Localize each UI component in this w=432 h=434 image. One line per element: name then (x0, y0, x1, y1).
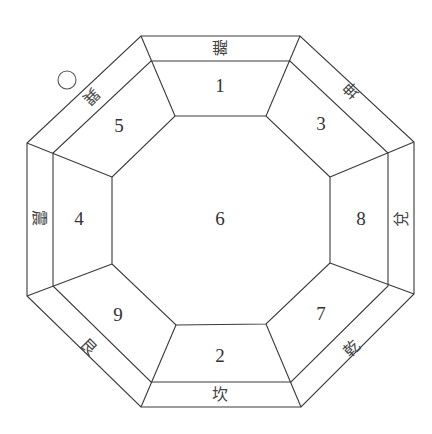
palace-number-top-right: 3 (316, 113, 326, 134)
palace-number-top-left: 5 (114, 115, 124, 136)
palace-number-bottom-right: 7 (316, 303, 326, 324)
trigram-label-bottom: 坎 (212, 385, 228, 404)
trigram-label-top-right: 坤 (339, 78, 364, 103)
circle-marker-icon (58, 71, 76, 89)
palace-number-left: 4 (74, 208, 84, 229)
trigram-label-right: 兌 (392, 211, 411, 227)
trigram-label-top: 離 (212, 38, 228, 57)
palace-number-right: 8 (356, 208, 366, 229)
trigram-label-bottom-right: 乾 (339, 336, 364, 361)
bagua-octagon-diagram: 6 1 3 8 7 2 9 4 5 離 坤 兌 乾 坎 艮 震 巽 (0, 0, 432, 434)
trigram-label-left: 震 (30, 210, 49, 226)
palace-number-bottom: 2 (215, 345, 225, 366)
trigram-label-top-left: 巽 (79, 84, 104, 109)
palace-number-bottom-left: 9 (113, 304, 123, 325)
palace-number-top: 1 (215, 75, 225, 96)
center-number: 6 (215, 208, 225, 229)
trigram-label-bottom-left: 艮 (76, 334, 101, 359)
